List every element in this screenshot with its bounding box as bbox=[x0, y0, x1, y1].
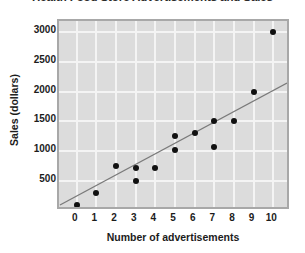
scatter-plot-figure: Health Food Store Advertisements and Sal… bbox=[0, 0, 305, 253]
data-point bbox=[133, 178, 139, 184]
data-point bbox=[172, 133, 178, 139]
gridline-vertical bbox=[253, 21, 255, 207]
chart-title: Health Food Store Advertisements and Sal… bbox=[0, 0, 305, 3]
gridline-vertical bbox=[272, 21, 274, 207]
gridline-vertical bbox=[95, 21, 97, 207]
data-point bbox=[113, 163, 119, 169]
y-tick-label: 1000 bbox=[20, 144, 56, 154]
x-tick-label: 0 bbox=[65, 213, 85, 223]
plot-area bbox=[57, 19, 289, 209]
y-axis-label: Sales (dollars) bbox=[8, 45, 20, 175]
x-tick-label: 5 bbox=[163, 213, 183, 223]
data-point bbox=[211, 118, 217, 124]
data-point bbox=[192, 130, 198, 136]
x-axis-label: Number of advertisements bbox=[57, 231, 289, 243]
gridline-vertical bbox=[174, 21, 176, 207]
gridline-vertical bbox=[115, 21, 117, 207]
gridline-horizontal bbox=[59, 31, 287, 33]
x-tick-label: 4 bbox=[143, 213, 163, 223]
y-tick-label: 2500 bbox=[20, 55, 56, 65]
x-tick-label: 10 bbox=[261, 213, 281, 223]
data-point bbox=[133, 165, 139, 171]
gridline-horizontal bbox=[59, 180, 287, 182]
gridline-vertical bbox=[233, 21, 235, 207]
gridline-vertical bbox=[154, 21, 156, 207]
data-point bbox=[270, 29, 276, 35]
gridline-vertical bbox=[76, 21, 78, 207]
y-tick-label: 500 bbox=[20, 174, 56, 184]
x-tick-label: 3 bbox=[124, 213, 144, 223]
data-point bbox=[211, 144, 217, 150]
data-point bbox=[93, 190, 99, 196]
x-tick-label: 7 bbox=[202, 213, 222, 223]
y-tick-label: 2000 bbox=[20, 85, 56, 95]
data-point bbox=[74, 202, 80, 208]
gridline-horizontal bbox=[59, 61, 287, 63]
gridline-vertical bbox=[213, 21, 215, 207]
data-point bbox=[152, 165, 158, 171]
plot-inner bbox=[59, 21, 287, 207]
x-tick-label: 6 bbox=[183, 213, 203, 223]
gridline-horizontal bbox=[59, 120, 287, 122]
data-point bbox=[251, 89, 257, 95]
y-tick-label: 3000 bbox=[20, 25, 56, 35]
data-point bbox=[231, 118, 237, 124]
x-tick-label: 2 bbox=[104, 213, 124, 223]
x-tick-label: 9 bbox=[242, 213, 262, 223]
x-tick-label: 8 bbox=[222, 213, 242, 223]
y-tick-label: 1500 bbox=[20, 114, 56, 124]
gridline-vertical bbox=[194, 21, 196, 207]
data-point bbox=[172, 147, 178, 153]
x-tick-label: 1 bbox=[84, 213, 104, 223]
